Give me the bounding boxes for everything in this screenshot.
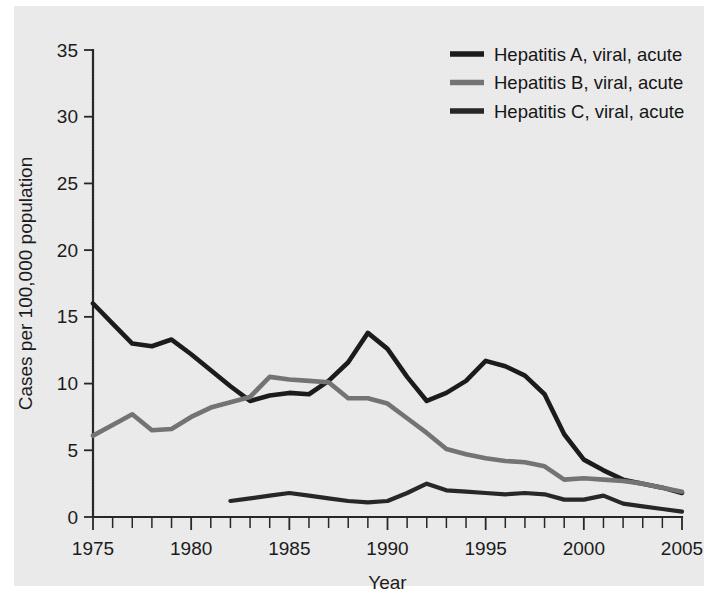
y-tick-label: 25 <box>57 173 78 194</box>
y-tick-label: 5 <box>67 440 78 461</box>
y-tick-label: 10 <box>57 373 78 394</box>
x-tick-label: 2005 <box>661 538 703 559</box>
legend-label-1: Hepatitis A, viral, acute <box>494 44 682 65</box>
chart-legend: Hepatitis A, viral, acuteHepatitis B, vi… <box>450 44 684 122</box>
y-axis: 05101520253035 <box>57 40 93 528</box>
x-axis: 1975198019851990199520002005 <box>72 517 703 559</box>
chart-figure: 05101520253035 1975198019851990199520002… <box>0 0 718 602</box>
series-line-3 <box>230 484 682 512</box>
y-tick-label: 35 <box>57 40 78 61</box>
legend-label-3: Hepatitis C, viral, acute <box>494 101 684 122</box>
x-tick-label: 2000 <box>563 538 605 559</box>
x-tick-label: 1985 <box>268 538 310 559</box>
data-series-group <box>93 304 682 512</box>
x-axis-title: Year <box>368 572 407 593</box>
y-tick-label: 20 <box>57 240 78 261</box>
x-tick-label: 1980 <box>170 538 212 559</box>
series-line-1 <box>93 304 682 493</box>
legend-label-2: Hepatitis B, viral, acute <box>494 72 683 93</box>
x-tick-label: 1990 <box>366 538 408 559</box>
y-tick-label: 0 <box>67 507 78 528</box>
x-tick-label: 1995 <box>465 538 507 559</box>
y-axis-title: Cases per 100,000 population <box>15 157 36 411</box>
y-tick-label: 30 <box>57 106 78 127</box>
x-tick-label: 1975 <box>72 538 114 559</box>
y-tick-label: 15 <box>57 306 78 327</box>
series-line-2 <box>93 377 682 492</box>
line-chart: 05101520253035 1975198019851990199520002… <box>0 0 718 602</box>
